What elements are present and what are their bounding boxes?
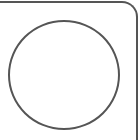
circle-shape [8, 20, 120, 130]
canvas [0, 0, 140, 140]
